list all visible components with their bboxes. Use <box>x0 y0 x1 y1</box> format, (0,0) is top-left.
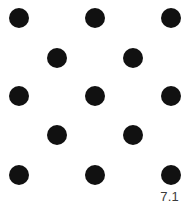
lattice-dot <box>47 48 67 68</box>
figure-container: 7.1 <box>0 0 182 209</box>
lattice-dot <box>85 165 105 185</box>
lattice-dot <box>47 125 67 145</box>
figure-number-label: 7.1 <box>160 190 179 203</box>
lattice-dot <box>9 86 29 106</box>
lattice-dot <box>161 8 181 28</box>
lattice-dot <box>161 165 181 185</box>
lattice-scatter-plot <box>0 0 182 209</box>
lattice-dot <box>85 8 105 28</box>
lattice-dot <box>123 48 143 68</box>
lattice-dot <box>9 8 29 28</box>
lattice-dot <box>85 86 105 106</box>
lattice-dot <box>123 125 143 145</box>
lattice-dot <box>9 165 29 185</box>
lattice-dot <box>161 86 181 106</box>
